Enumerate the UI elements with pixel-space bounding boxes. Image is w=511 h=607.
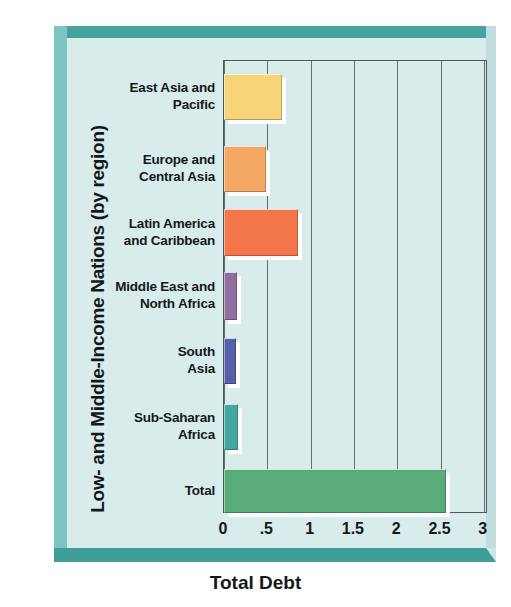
bar-row	[224, 469, 486, 513]
bar-row	[224, 338, 486, 384]
category-label: Middle East andNorth Africa	[67, 278, 215, 312]
bar[interactable]	[224, 338, 236, 384]
category-label-line: Sub-Saharan	[67, 409, 215, 426]
frame-bevel-right	[486, 26, 496, 562]
category-label-line: Asia	[67, 360, 215, 377]
bar[interactable]	[224, 146, 266, 192]
chart-frame: Low- and Middle-Income Nations (by regio…	[54, 26, 496, 562]
x-tick-.5: .5	[260, 520, 273, 538]
category-label-line: Pacific	[67, 96, 215, 113]
bar-row	[224, 74, 486, 120]
category-label: East Asia andPacific	[67, 79, 215, 113]
bar[interactable]	[224, 74, 282, 120]
category-label: Total	[67, 482, 215, 499]
x-tick-3: 3	[478, 520, 487, 538]
category-label: Sub-SaharanAfrica	[67, 409, 215, 443]
category-label-line: Central Asia	[67, 168, 215, 185]
category-label-line: Africa	[67, 426, 215, 443]
x-tick-2: 2	[392, 520, 401, 538]
x-tick-0: 0	[219, 520, 228, 538]
plot-area	[223, 60, 487, 513]
category-label-line: and Caribbean	[67, 232, 215, 249]
category-label-line: Total	[67, 482, 215, 499]
bar-row	[224, 272, 486, 320]
chart-figure: Low- and Middle-Income Nations (by regio…	[0, 0, 511, 607]
x-tick-2.5: 2.5	[428, 520, 450, 538]
frame-bevel-left	[54, 26, 67, 562]
bar-row	[224, 209, 486, 256]
category-label: Europe andCentral Asia	[67, 151, 215, 185]
category-label-line: Middle East and	[67, 278, 215, 295]
category-label: SouthAsia	[67, 343, 215, 377]
bar-row	[224, 404, 486, 450]
bar[interactable]	[224, 209, 298, 256]
chart-panel: Low- and Middle-Income Nations (by regio…	[67, 38, 486, 548]
category-label: Latin Americaand Caribbean	[67, 215, 215, 249]
category-label-line: North Africa	[67, 295, 215, 312]
bar[interactable]	[224, 272, 237, 320]
frame-bevel-top	[54, 26, 496, 38]
x-axis-title: Total Debt	[0, 572, 511, 594]
x-tick-1.5: 1.5	[342, 520, 364, 538]
category-label-line: Latin America	[67, 215, 215, 232]
category-label-line: South	[67, 343, 215, 360]
bar[interactable]	[224, 404, 238, 450]
bar-row	[224, 146, 486, 192]
category-label-line: East Asia and	[67, 79, 215, 96]
x-tick-1: 1	[305, 520, 314, 538]
bar[interactable]	[224, 469, 446, 513]
frame-bevel-bottom	[54, 548, 496, 562]
category-label-line: Europe and	[67, 151, 215, 168]
